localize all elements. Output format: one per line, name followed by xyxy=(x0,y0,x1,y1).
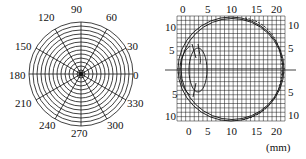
angle-label-60: 60 xyxy=(106,12,117,23)
bottom-tick-0: 0 xyxy=(186,126,192,137)
angle-label-180: 180 xyxy=(9,70,26,81)
angle-label-120: 120 xyxy=(38,12,55,23)
top-tick-20: 20 xyxy=(271,4,282,15)
top-tick-10: 10 xyxy=(226,4,237,15)
left-tick-10-top: 10 xyxy=(165,22,176,33)
angle-label-270: 270 xyxy=(71,128,88,139)
angle-label-330: 330 xyxy=(127,98,144,109)
top-tick-15: 15 xyxy=(251,4,262,15)
angle-label-0: 0 xyxy=(133,70,139,81)
right-tick-10-bottom: 10 xyxy=(288,110,299,121)
bottom-tick-10: 10 xyxy=(226,126,237,137)
bottom-tick-5: 5 xyxy=(205,126,211,137)
unit-label: (mm) xyxy=(266,142,290,153)
left-tick-10-bottom: 10 xyxy=(165,111,176,122)
angle-label-210: 210 xyxy=(15,98,32,109)
right-tick-5-top: 5 xyxy=(288,43,294,54)
top-tick-0: 0 xyxy=(180,4,186,15)
angle-label-240: 240 xyxy=(39,120,56,131)
angle-label-90: 90 xyxy=(71,4,82,15)
top-tick-5: 5 xyxy=(205,4,211,15)
right-tick-10-top: 10 xyxy=(288,20,299,31)
right-tick-5-bottom: 5 xyxy=(288,87,294,98)
angle-label-150: 150 xyxy=(15,41,32,52)
bottom-tick-20: 20 xyxy=(271,126,282,137)
angle-label-300: 300 xyxy=(107,120,124,131)
polar-chart xyxy=(29,22,133,126)
eye-outline xyxy=(178,17,284,121)
bottom-tick-15: 15 xyxy=(251,126,262,137)
left-tick-5-top: 5 xyxy=(169,45,175,56)
angle-label-30: 30 xyxy=(127,41,138,52)
left-tick-5-bottom: 5 xyxy=(172,89,178,100)
